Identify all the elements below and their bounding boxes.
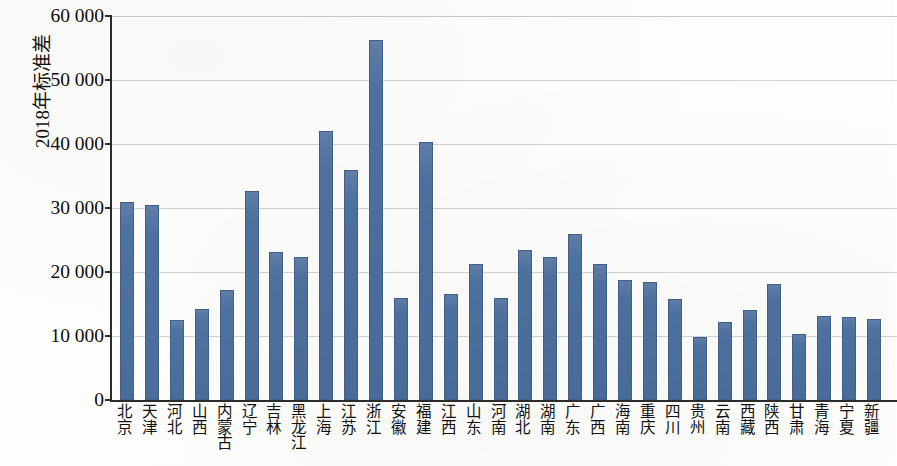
bar [369,40,383,400]
bar [245,191,259,400]
bar [568,234,582,400]
y-axis-tick-labels: 60 00050 00040 00030 00020 00010 0000 [6,0,104,466]
bar [718,322,732,400]
x-tick-label: 青海 [813,404,832,435]
y-tick-label: 30 000 [12,198,104,218]
bar [668,299,682,400]
bar-series [112,16,897,400]
x-tick-label: 西藏 [738,404,757,435]
x-tick-label: 云南 [713,404,732,435]
y-tick-label: 10 000 [12,326,104,346]
bar [767,284,781,400]
x-tick-label: 湖南 [539,404,558,435]
bar [543,257,557,400]
x-tick-label: 河北 [165,404,184,435]
y-tick-label: 60 000 [12,6,104,26]
x-tick-label: 山东 [464,404,483,435]
bar [867,319,881,400]
bar [792,334,806,400]
x-tick-label: 海南 [614,404,633,435]
x-tick-label: 浙江 [365,404,384,435]
x-tick-label: 福建 [414,404,433,435]
x-tick-label: 上海 [315,404,334,435]
axis-tick-mark [105,271,112,273]
bar [120,202,134,400]
bar [842,317,856,400]
x-tick-label: 天津 [140,404,159,435]
x-tick-label: 吉林 [265,404,284,435]
bar [344,170,358,400]
bar [494,298,508,400]
x-tick-label: 四川 [663,404,682,435]
bar [145,205,159,400]
bar [444,294,458,400]
x-tick-label: 新疆 [863,404,882,435]
axis-tick-mark [105,399,112,401]
x-tick-label: 江苏 [340,404,359,435]
x-tick-label: 广东 [564,404,583,435]
bar [170,320,184,400]
x-tick-label: 黑龙江 [290,404,309,451]
x-tick-label: 山西 [190,404,209,435]
axis-tick-mark [105,207,112,209]
x-tick-label: 甘肃 [788,404,807,435]
bar [294,257,308,400]
bar [195,309,209,400]
bar [743,310,757,400]
y-tick-label: 0 [12,390,104,410]
bar [269,252,283,400]
axis-tick-mark [105,79,112,81]
y-tick-label: 20 000 [12,262,104,282]
bar [643,282,657,400]
y-tick-label: 50 000 [12,70,104,90]
bar [593,264,607,400]
x-tick-label: 内蒙古 [215,404,234,451]
x-tick-label: 北京 [116,404,135,435]
x-tick-label: 湖北 [514,404,533,435]
bar [693,337,707,400]
axis-tick-mark [105,143,112,145]
x-tick-label: 广西 [589,404,608,435]
bar [469,264,483,400]
x-tick-label: 陕西 [763,404,782,435]
bar [618,280,632,400]
x-tick-label: 安徽 [389,404,408,435]
x-tick-label: 河南 [489,404,508,435]
x-axis-tick-labels: 北京天津河北山西内蒙古辽宁吉林黑龙江上海江苏浙江安徽福建江西山东河南湖北湖南广东… [110,404,895,466]
bar [220,290,234,400]
bar [518,250,532,400]
bar [394,298,408,400]
y-tick-label: 40 000 [12,134,104,154]
x-tick-label: 重庆 [638,404,657,435]
axis-tick-mark [105,15,112,17]
bar [419,142,433,400]
x-tick-label: 辽宁 [240,404,259,435]
plot-area [110,16,897,402]
x-tick-label: 贵州 [688,404,707,435]
x-tick-label: 宁夏 [838,404,857,435]
bar [817,316,831,400]
x-tick-label: 江西 [439,404,458,435]
axis-tick-mark [105,335,112,337]
bar [319,131,333,400]
